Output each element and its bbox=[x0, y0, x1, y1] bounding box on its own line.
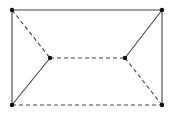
vertex-bl bbox=[10, 103, 14, 107]
vertex-il bbox=[48, 56, 52, 60]
vertex-br bbox=[160, 103, 164, 107]
vertex-tr bbox=[160, 8, 164, 12]
edge-tr-ir-solid bbox=[125, 10, 162, 58]
edge-ir-br-dashed bbox=[125, 58, 162, 105]
vertex-ir bbox=[123, 56, 127, 60]
vertex-tl bbox=[10, 8, 14, 12]
edge-tl-il-dashed bbox=[12, 10, 50, 58]
edge-bl-il-solid bbox=[12, 58, 50, 105]
edges-group bbox=[12, 10, 162, 105]
graph-diagram bbox=[0, 0, 176, 117]
